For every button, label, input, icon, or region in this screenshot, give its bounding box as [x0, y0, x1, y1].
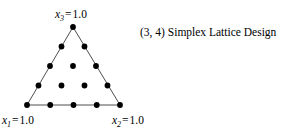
vertex-label-x1-equals: = — [11, 114, 20, 126]
vertex-label-x3: x3=1.0 — [55, 9, 87, 21]
lattice-point — [82, 44, 88, 50]
lattice-point — [117, 102, 123, 108]
lattice-point — [105, 83, 111, 89]
vertex-label-x3-subscript: 3 — [60, 14, 64, 23]
vertex-label-x2-equals: = — [121, 114, 130, 126]
lattice-point — [47, 63, 53, 69]
vertex-label-x3-value: 1.0 — [73, 8, 87, 20]
lattice-point — [71, 102, 77, 108]
vertex-label-x1-subscript: 1 — [7, 120, 11, 129]
lattice-point — [70, 24, 76, 30]
simplex-lattice-figure: x3=1.0 x1=1.0 x2=1.0 (3, 4) Simplex Latt… — [0, 0, 298, 137]
vertex-label-x2-subscript: 2 — [117, 120, 121, 129]
lattice-point — [59, 83, 65, 89]
vertex-label-x1: x1=1.0 — [2, 115, 34, 127]
vertex-label-x2: x2=1.0 — [112, 115, 144, 127]
lattice-point — [93, 63, 99, 69]
lattice-point-group — [24, 24, 123, 108]
lattice-point — [82, 83, 88, 89]
lattice-point — [47, 102, 53, 108]
vertex-label-x2-value: 1.0 — [130, 114, 144, 126]
lattice-point — [70, 63, 76, 69]
lattice-point — [94, 102, 100, 108]
lattice-point — [36, 83, 42, 89]
vertex-label-x3-equals: = — [64, 8, 73, 20]
figure-caption: (3, 4) Simplex Lattice Design — [140, 26, 276, 39]
lattice-point — [24, 102, 30, 108]
vertex-label-x1-value: 1.0 — [20, 114, 34, 126]
lattice-point — [59, 44, 65, 50]
